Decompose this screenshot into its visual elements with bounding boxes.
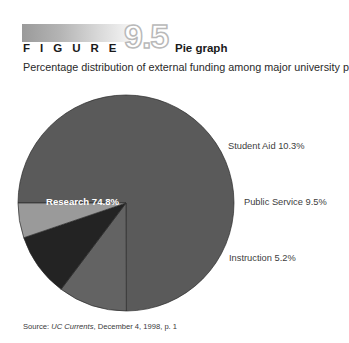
pie-label-public-service: Public Service 9.5% (244, 196, 327, 208)
figure-header: F I G U R E 9.5 Pie graph (0, 24, 349, 56)
figure-label: F I G U R E (23, 41, 120, 55)
pie-label-student-aid: Student Aid 10.3% (228, 140, 305, 152)
figure-subtitle: Percentage distribution of external fund… (23, 60, 343, 74)
pie-label-research: Research 74.8% (46, 196, 119, 208)
source-rest: , December 4, 1998, p. 1 (93, 322, 177, 331)
figure-page: F I G U R E 9.5 Pie graph Percentage dis… (0, 0, 349, 343)
pie-chart: Research 74.8% Student Aid 10.3% Public … (0, 84, 349, 319)
pie-label-instruction: Instruction 5.2% (229, 252, 296, 264)
figure-title: Pie graph (175, 41, 227, 55)
figure-gradient-bar (22, 24, 130, 42)
source-prefix: Source: (23, 322, 51, 331)
source-note: Source: UC Currents, December 4, 1998, p… (23, 322, 177, 332)
source-publication: UC Currents (51, 322, 93, 331)
figure-number: 9.5 (124, 17, 168, 55)
